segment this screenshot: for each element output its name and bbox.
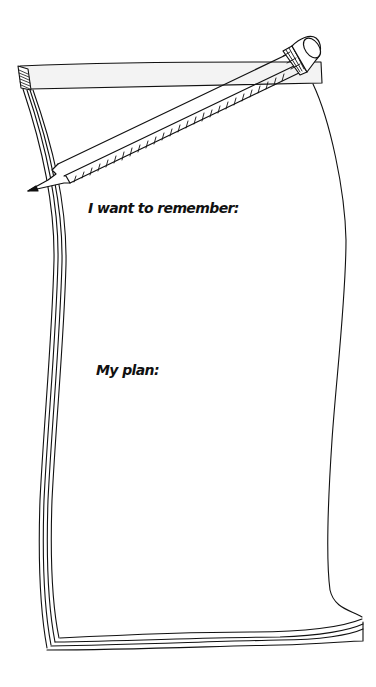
top-strip bbox=[20, 62, 322, 89]
prompt-plan-label: My plan: bbox=[96, 362, 159, 378]
notepad-illustration bbox=[0, 0, 376, 687]
prompt-remember-label: I want to remember: bbox=[88, 200, 239, 216]
page-right-edge bbox=[313, 84, 362, 617]
page-bottom-2 bbox=[55, 624, 363, 642]
pencil-tip bbox=[28, 186, 38, 191]
pencil bbox=[28, 35, 324, 191]
notepad bbox=[18, 62, 363, 650]
page-bottom-edge bbox=[60, 619, 362, 638]
